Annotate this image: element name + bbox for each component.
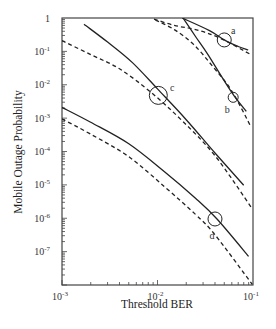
annotation-label-a: a [231,25,236,36]
annotation-label-c: c [170,82,175,93]
x-axis-title: Threshold BER [121,298,193,310]
curve-c-dashed [62,41,251,207]
curve-b-dashed [155,20,251,127]
curve-c-solid [84,24,244,185]
curve-d-dashed [62,119,252,284]
y-tick-label: 10-6 [34,212,50,224]
outage-probability-chart: 110-110-210-310-410-510-610-7 10-310-210… [0,0,276,329]
data-curves [62,18,252,284]
x-tick-label: 10-1 [243,290,259,302]
y-tick-label: 10-5 [34,178,50,190]
annotation-label-b: b [225,104,230,115]
curve-a-dashed [154,19,251,55]
annotation-circle-d [208,212,222,226]
y-tick-label: 10-1 [34,45,50,57]
y-axis-title: Mobile Outage Probability [12,90,25,214]
curve-d-solid [62,107,249,256]
y-tick-label: 10-3 [34,112,50,124]
plot-border [62,18,253,285]
plot-area [62,18,253,285]
y-tick-label: 10-2 [34,78,50,90]
annotation-label-d: d [209,230,214,241]
x-axis-minor-ticks [62,280,249,285]
y-tick-label: 10-4 [34,145,50,157]
curve-b-solid [183,18,246,111]
y-tick-label: 1 [45,13,50,24]
y-tick-label: 10-7 [34,245,50,257]
y-axis-tick-labels: 110-110-210-310-410-510-610-7 [34,13,50,258]
curve-a-solid [182,18,248,50]
x-tick-label: 10-3 [52,290,68,302]
y-axis-minor-ticks [62,20,67,285]
